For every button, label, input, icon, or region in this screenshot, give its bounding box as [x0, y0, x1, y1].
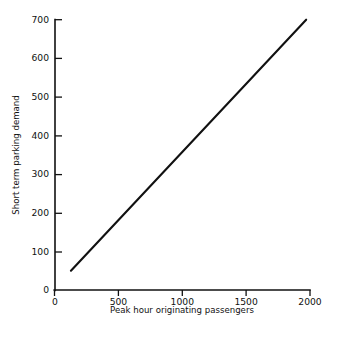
y-tick-label-200: 200 [31, 207, 49, 218]
y-axis-title: Short term parking demand [11, 95, 21, 214]
chart-background [0, 0, 340, 344]
x-axis-title: Peak hour originating passengers [110, 305, 254, 315]
y-tick-label-100: 100 [31, 246, 49, 257]
y-tick-label-700: 700 [31, 14, 49, 25]
y-tick-label-300: 300 [31, 168, 49, 179]
y-tick-label-600: 600 [31, 52, 49, 63]
y-tick-label-400: 400 [31, 130, 49, 141]
x-tick-label-0: 0 [52, 296, 58, 307]
y-tick-label-500: 500 [31, 91, 49, 102]
line-chart-svg: 700 600 500 400 300 200 100 0 0 500 1000… [0, 0, 340, 344]
x-tick-label-2000: 2000 [298, 296, 322, 307]
chart-figure: 700 600 500 400 300 200 100 0 0 500 1000… [0, 0, 340, 344]
y-tick-label-0: 0 [43, 284, 49, 295]
